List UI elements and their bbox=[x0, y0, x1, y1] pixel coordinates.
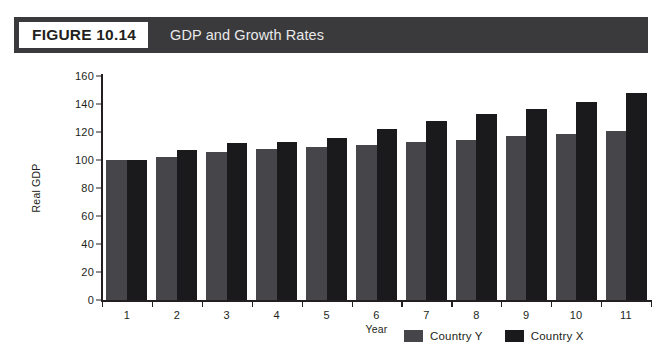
bar-country-y-year-5 bbox=[306, 147, 327, 300]
y-tick-mark bbox=[96, 132, 101, 133]
x-tick-mark bbox=[451, 301, 452, 307]
bar-chart: Real GDP 020406080100120140160 123456789… bbox=[0, 0, 662, 351]
x-tick-mark bbox=[102, 301, 103, 307]
x-tick-label-9: 9 bbox=[511, 309, 541, 321]
x-tick-label-2: 2 bbox=[162, 309, 192, 321]
bar-country-x-year-8 bbox=[476, 114, 497, 300]
x-tick-label-7: 7 bbox=[411, 309, 441, 321]
bar-country-x-year-2 bbox=[177, 150, 198, 300]
y-tick-label: 160 bbox=[50, 70, 94, 82]
legend-label: Country Y bbox=[430, 330, 483, 342]
x-tick-mark bbox=[401, 301, 402, 307]
y-tick-mark bbox=[96, 272, 101, 273]
legend-swatch-icon bbox=[404, 330, 423, 342]
x-tick-label-3: 3 bbox=[212, 309, 242, 321]
y-tick-mark bbox=[96, 216, 101, 217]
y-tick-label: 140 bbox=[50, 98, 94, 110]
legend-label: Country X bbox=[531, 330, 584, 342]
bar-country-x-year-3 bbox=[227, 143, 248, 300]
x-tick-mark bbox=[501, 301, 502, 307]
bar-country-x-year-1 bbox=[127, 160, 148, 300]
y-axis-line bbox=[101, 74, 103, 301]
bar-country-y-year-6 bbox=[356, 145, 377, 300]
y-tick-mark bbox=[96, 244, 101, 245]
x-tick-mark bbox=[651, 301, 652, 307]
y-axis-label: Real GDP bbox=[30, 138, 42, 238]
y-tick-label: 20 bbox=[50, 266, 94, 278]
bar-country-y-year-9 bbox=[506, 136, 527, 300]
bar-country-y-year-11 bbox=[606, 131, 627, 300]
y-tick-label: 120 bbox=[50, 126, 94, 138]
chart-legend: Country YCountry X bbox=[404, 330, 584, 342]
x-tick-label-1: 1 bbox=[112, 309, 142, 321]
x-tick-label-6: 6 bbox=[362, 309, 392, 321]
bar-country-y-year-10 bbox=[556, 134, 577, 300]
bar-country-y-year-4 bbox=[256, 149, 277, 300]
x-tick-mark bbox=[551, 301, 552, 307]
legend-item-country-x: Country X bbox=[505, 330, 584, 342]
x-tick-label-4: 4 bbox=[262, 309, 292, 321]
bar-country-y-year-8 bbox=[456, 140, 477, 300]
legend-swatch-icon bbox=[505, 330, 524, 342]
legend-item-country-y: Country Y bbox=[404, 330, 483, 342]
bar-country-y-year-7 bbox=[406, 142, 427, 300]
y-tick-mark bbox=[96, 76, 101, 77]
y-tick-label: 0 bbox=[50, 294, 94, 306]
y-tick-label: 100 bbox=[50, 154, 94, 166]
x-tick-mark bbox=[601, 301, 602, 307]
bar-country-x-year-6 bbox=[377, 129, 398, 300]
x-tick-label-8: 8 bbox=[461, 309, 491, 321]
bar-country-x-year-11 bbox=[626, 93, 647, 300]
bar-country-x-year-10 bbox=[576, 102, 597, 300]
bar-country-y-year-3 bbox=[206, 152, 227, 300]
x-axis-line bbox=[101, 300, 652, 302]
bar-country-x-year-5 bbox=[327, 138, 348, 300]
x-tick-label-5: 5 bbox=[312, 309, 342, 321]
bar-country-y-year-1 bbox=[106, 160, 127, 300]
x-tick-mark bbox=[352, 301, 353, 307]
x-tick-label-10: 10 bbox=[561, 309, 591, 321]
y-tick-mark bbox=[96, 188, 101, 189]
y-tick-label: 60 bbox=[50, 210, 94, 222]
bar-country-x-year-4 bbox=[277, 142, 298, 300]
x-tick-mark bbox=[202, 301, 203, 307]
x-tick-label-11: 11 bbox=[611, 309, 641, 321]
y-tick-mark bbox=[96, 160, 101, 161]
bar-country-x-year-9 bbox=[526, 109, 547, 300]
x-tick-mark bbox=[302, 301, 303, 307]
y-tick-mark bbox=[96, 104, 101, 105]
y-tick-mark bbox=[96, 300, 101, 301]
bar-country-x-year-7 bbox=[426, 121, 447, 300]
y-tick-label: 80 bbox=[50, 182, 94, 194]
bar-country-y-year-2 bbox=[156, 157, 177, 300]
y-tick-label: 40 bbox=[50, 238, 94, 250]
x-tick-mark bbox=[152, 301, 153, 307]
x-tick-mark bbox=[252, 301, 253, 307]
